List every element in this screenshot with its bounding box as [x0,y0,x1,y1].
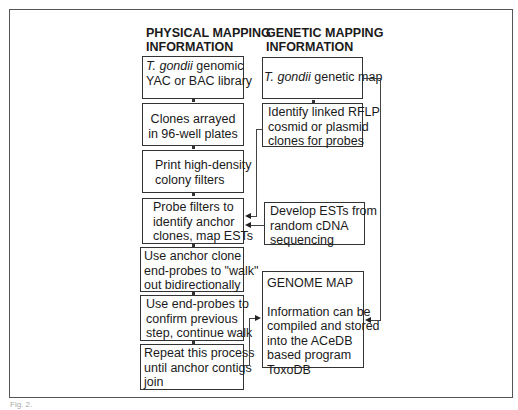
box-text: Probe filters to [153,200,240,215]
box-print-filters: Print high-density colony filters [142,150,244,193]
arrow-left-icon [245,222,251,228]
box-text: clones for probes [268,134,359,149]
box-text: Develop ESTs from [270,204,361,219]
box-text: ToxoDB [267,363,360,378]
box-text: Print high-density [155,158,240,173]
box-identify-rflp: Identify linked RFLP cosmid or plasmid c… [262,103,363,147]
box-text: Identify linked RFLP [268,105,359,120]
box-text: until anchor contigs [144,361,240,376]
box-text: identify anchor [153,215,240,230]
species-name: T. gondii [146,59,193,73]
box-anchor-clone: Use anchor clone end-probes to "walk" ou… [140,247,244,292]
box-genome-map: GENOME MAP Information can be compiled a… [262,271,364,368]
box-repeat-process: Repeat this process until anchor contigs… [140,344,244,390]
box-text: genomic [193,59,244,73]
box-clones-arrayed: Clones arrayed in 96-well plates [142,103,244,146]
connector-line [363,78,381,79]
box-genomic-library: T. gondii genomic YAC or BAC library [142,56,244,99]
box-text: confirm previous [146,312,240,327]
box-text: Information can be [267,305,360,320]
genome-map-title: GENOME MAP [267,276,360,291]
box-text: genetic map [311,70,383,84]
box-text: cosmid or plasmid [268,120,359,135]
box-text: out bidirectionally [144,278,240,293]
box-text: sequencing [270,233,361,248]
box-end-probes: Use end-probes to confirm previous step,… [140,295,244,341]
arrow-left-icon [365,317,371,323]
box-text: random cDNA [270,219,361,234]
box-text: based program [267,348,360,363]
physical-mapping-heading: PHYSICAL MAPPING INFORMATION [146,26,271,54]
box-text: into the ACeDB [267,334,360,349]
box-text: end-probes to "walk" [144,264,240,279]
diagram-frame [9,9,513,398]
species-name: T. gondii [264,70,311,84]
box-probe-filters: Probe filters to identify anchor clones,… [142,198,244,244]
box-text: Repeat this process [144,346,240,361]
box-text: join [144,375,240,390]
connector-dot [192,99,195,102]
box-text: clones, map ESTs [153,229,240,244]
arrow-right-icon [255,315,261,321]
box-text: Use anchor clone [144,249,240,264]
connector-line [370,320,381,321]
box-text: in 96-well plates [146,127,240,142]
spacer [267,291,360,305]
box-genetic-map: T. gondii genetic map [262,57,363,99]
figure-caption: Fig. 2. [10,400,32,409]
box-text: colony filters [155,173,240,188]
connector-line [380,78,381,321]
box-text: YAC or BAC library [146,74,240,89]
box-develop-ests: Develop ESTs from random cDNA sequencing [264,202,365,245]
box-text: Clones arrayed [146,112,240,127]
box-text: Use end-probes to [146,297,240,312]
genetic-mapping-heading: GENETIC MAPPING INFORMATION [266,26,383,54]
connector-line [256,129,257,217]
connector-line [250,225,264,226]
arrow-left-icon [245,213,251,219]
connector-line [249,318,250,366]
box-text: compiled and stored [267,319,360,334]
connector-dot [192,193,195,196]
box-text: step, continue walk [146,326,240,341]
connector-line [250,216,257,217]
connector-dot [192,146,195,149]
